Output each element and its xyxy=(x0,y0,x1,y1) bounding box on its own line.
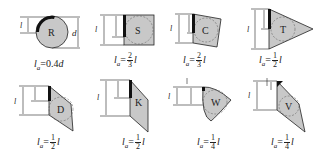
svg-text:d: d xyxy=(72,28,77,38)
formula-w: la=14l xyxy=(197,134,220,151)
insert-d: D l la=12l xyxy=(5,78,85,157)
svg-text:V: V xyxy=(285,101,293,112)
svg-text:S: S xyxy=(135,25,141,36)
svg-text:l: l xyxy=(14,97,17,106)
svg-text:W: W xyxy=(211,97,221,108)
trigon-insert-icon: W l xyxy=(165,78,240,133)
svg-text:l: l xyxy=(95,25,98,34)
formula-r: la=0.4d xyxy=(34,58,63,72)
svg-text:C: C xyxy=(202,25,209,36)
rhombic-80-insert-icon: C l xyxy=(165,0,240,55)
insert-v: V l la=14l xyxy=(245,78,320,157)
formula-c: la=23l xyxy=(183,52,206,69)
insert-r: R l d la=0.4d xyxy=(0,0,80,78)
svg-text:l: l xyxy=(248,91,251,100)
svg-text:R: R xyxy=(48,27,55,38)
svg-text:T: T xyxy=(280,24,286,35)
formula-s: la=23l xyxy=(114,52,137,69)
formula-d: la=12l xyxy=(37,134,60,151)
formula-v: la=14l xyxy=(271,134,294,151)
round-insert-icon: R l d xyxy=(0,0,80,60)
svg-text:l: l xyxy=(170,24,173,33)
svg-text:l: l xyxy=(20,21,23,30)
formula-t: la=12l xyxy=(259,52,282,69)
square-insert-icon: S l xyxy=(90,0,160,55)
svg-text:l: l xyxy=(97,93,100,102)
rhombic-55-insert-icon: D l xyxy=(5,78,85,133)
triangle-insert-icon: T l xyxy=(245,0,320,55)
parallelogram-insert-icon: K l xyxy=(90,78,160,133)
insert-k: K l la=12l xyxy=(90,78,160,157)
svg-text:l: l xyxy=(168,92,171,101)
insert-w: W l la=14l xyxy=(165,78,240,157)
svg-text:l: l xyxy=(247,25,250,34)
formula-k: la=12l xyxy=(122,134,145,151)
insert-c: C l la=23l xyxy=(165,0,240,78)
insert-t: T l la=12l xyxy=(245,0,320,78)
svg-text:K: K xyxy=(135,97,143,108)
insert-s: S l la=23l xyxy=(90,0,160,78)
svg-text:D: D xyxy=(57,104,64,115)
rhombic-35-insert-icon: V l xyxy=(245,78,320,133)
